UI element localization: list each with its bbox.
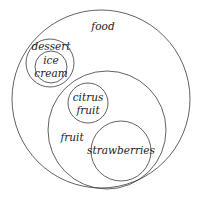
ice-cream-label-line2: cream [34, 67, 67, 79]
fruit-circle [48, 71, 166, 189]
food-label: food [90, 20, 115, 32]
citrus-fruit-label-line1: citrus [73, 91, 104, 103]
strawberries-label: strawberries [87, 144, 155, 156]
ice-cream-label-line1: ice [43, 54, 58, 66]
fruit-label: fruit [59, 131, 84, 143]
euler-diagram: food dessert ice cream fruit citrus frui… [0, 0, 197, 200]
dessert-label: dessert [31, 40, 71, 52]
citrus-fruit-label-line2: fruit [75, 104, 100, 116]
citrus-fruit-circle [68, 83, 108, 123]
